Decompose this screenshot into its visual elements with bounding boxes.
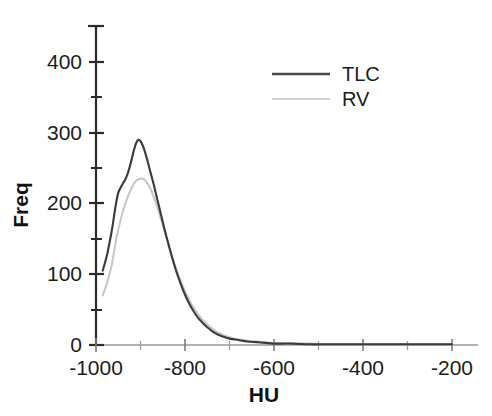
x-axis-title: HU [249, 383, 279, 406]
y-tick-label-200: 200 [47, 191, 82, 214]
y-tick-label-0: 0 [70, 333, 82, 356]
legend-label-tlc: TLC [342, 63, 380, 85]
y-tick-label-400: 400 [47, 50, 82, 73]
chart-figure: 0 100 200 300 400 -1000 -800 -600 -400 -… [0, 0, 492, 416]
x-tick-label-neg200: -200 [431, 356, 473, 379]
x-tick-label-neg800: -800 [164, 356, 206, 379]
x-tick-label-neg600: -600 [253, 356, 295, 379]
x-tick-label-neg1000: -1000 [69, 356, 123, 379]
y-tick-label-100: 100 [47, 262, 82, 285]
y-tick-label-300: 300 [47, 121, 82, 144]
y-axis-title: Freq [9, 182, 32, 228]
legend-label-rv: RV [342, 88, 370, 110]
x-tick-label-neg400: -400 [342, 356, 384, 379]
frequency-distribution-chart: 0 100 200 300 400 -1000 -800 -600 -400 -… [0, 0, 492, 416]
